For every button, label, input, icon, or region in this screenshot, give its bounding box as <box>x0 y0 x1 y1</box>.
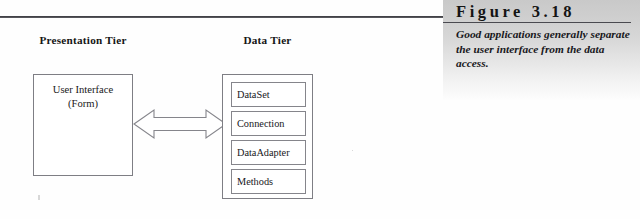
data-tier-item-label: DataSet <box>237 89 270 100</box>
data-tier-item-label: Methods <box>237 176 273 187</box>
figure-title-underline <box>443 22 631 24</box>
header-rule <box>0 16 444 18</box>
figure-page: Figure 3.18 Good applications generally … <box>0 0 640 219</box>
user-interface-box-label-line2: (Form) <box>34 97 132 111</box>
data-tier-item-label: DataAdapter <box>237 147 290 158</box>
presentation-tier-heading: Presentation Tier <box>33 34 133 46</box>
scan-speck <box>352 150 353 151</box>
data-tier-item-label: Connection <box>237 118 284 129</box>
scan-speck <box>38 195 40 200</box>
data-tier-item: DataAdapter <box>231 140 306 165</box>
data-tier-item-list: DataSet Connection DataAdapter Methods <box>231 82 306 194</box>
user-interface-box-label-line1: User Interface <box>34 83 132 97</box>
data-tier-item: DataSet <box>231 82 306 107</box>
user-interface-box: User Interface (Form) <box>33 74 133 176</box>
figure-title: Figure 3.18 <box>456 2 636 22</box>
bidirectional-arrow-icon <box>133 106 227 142</box>
user-interface-box-label: User Interface (Form) <box>34 83 132 110</box>
data-tier-item: Methods <box>231 169 306 194</box>
data-tier-item: Connection <box>231 111 306 136</box>
data-tier-box: DataSet Connection DataAdapter Methods <box>222 74 313 199</box>
figure-caption-text: Good applications generally separate the… <box>456 27 632 71</box>
data-tier-heading: Data Tier <box>222 34 313 46</box>
